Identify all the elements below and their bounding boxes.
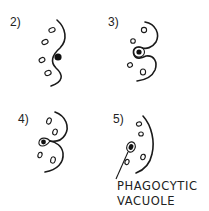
cytoplasm-granule <box>50 156 56 163</box>
particle <box>128 143 134 150</box>
cytoplasm-granule <box>141 27 146 32</box>
panel-stage-3: 3) <box>108 15 158 81</box>
caption-line-1: PHAGOCYTIC <box>117 179 198 193</box>
cytoplasm-granule <box>37 152 43 159</box>
cell-membrane-upper <box>50 112 67 141</box>
phagocytosis-diagram: 2) 3) 4) 5) <box>0 0 209 211</box>
cytoplasm-granule <box>139 132 144 136</box>
cytoplasm-granule <box>38 57 45 64</box>
cytoplasm-granule <box>136 121 142 126</box>
panel-stage-2: 2) <box>10 15 65 86</box>
caption-line-2: VACUOLE <box>117 194 175 208</box>
particle <box>41 140 46 145</box>
panel-stage-5: 5) PHAGOCYTIC VACUOLE <box>113 112 198 208</box>
particle <box>136 49 141 54</box>
particle <box>54 53 61 60</box>
stage-label-3: 3) <box>108 15 119 29</box>
cytoplasm-granule <box>140 69 145 75</box>
cell-membrane <box>136 116 153 173</box>
cytoplasm-granule <box>41 39 49 46</box>
cytoplasm-granule <box>48 27 56 33</box>
panel-stage-4: 4) <box>18 112 67 172</box>
cytoplasm-granule <box>131 39 136 44</box>
stage-label-4: 4) <box>18 112 29 126</box>
cytoplasm-granule <box>140 154 146 161</box>
cytoplasm-granule <box>127 62 133 68</box>
stage-label-5: 5) <box>113 112 124 126</box>
pointer-line <box>116 152 128 179</box>
stage-label-2: 2) <box>10 15 21 29</box>
cytoplasm-granule <box>52 128 58 135</box>
cytoplasm-granule <box>46 117 52 125</box>
cell-membrane <box>51 20 65 86</box>
cytoplasm-granule <box>44 70 52 77</box>
